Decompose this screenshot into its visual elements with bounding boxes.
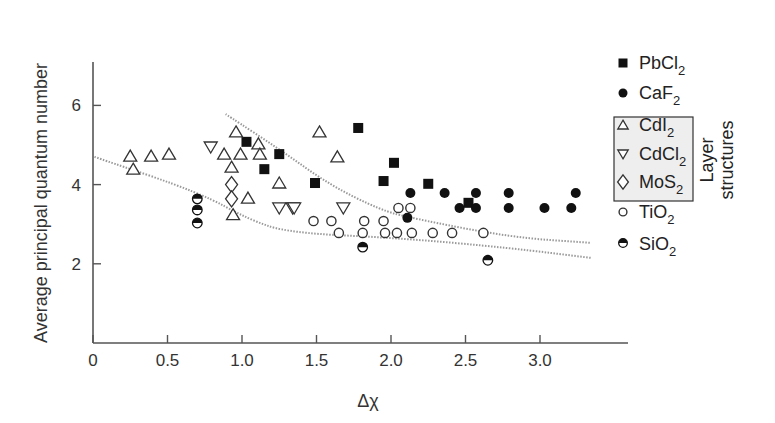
legend-item-pbcl2: PbCl2	[619, 53, 686, 78]
open-triangle-up-marker	[234, 148, 247, 159]
x-tick-label: 2.5	[454, 351, 478, 370]
filled-circle-marker	[471, 203, 481, 213]
open-circle-marker	[479, 228, 488, 237]
filled-circle-marker	[455, 203, 465, 213]
open-circle-marker	[334, 228, 343, 237]
open-circle-marker	[394, 203, 403, 212]
open-triangle-up-marker	[145, 150, 158, 161]
open-triangle-up-marker	[253, 148, 266, 159]
filled-square-marker	[389, 158, 399, 168]
filled-circle-marker	[504, 203, 514, 213]
open-triangle-up-marker	[124, 150, 137, 161]
filled-circle-marker	[402, 213, 412, 223]
x-tick-label: 2.0	[379, 351, 403, 370]
y-tick-label: 6	[72, 96, 81, 115]
open-triangle-up-marker	[241, 192, 254, 203]
open-triangle-down-marker	[204, 142, 217, 153]
open-triangle-up-marker	[225, 161, 238, 172]
x-axis-title: Δχ	[357, 391, 379, 411]
half-filled-circle-marker	[193, 205, 203, 215]
open-triangle-up-marker	[331, 151, 344, 162]
filled-circle-marker	[539, 203, 549, 213]
legend-label: PbCl2	[639, 53, 685, 78]
x-tick-label: 0.5	[156, 351, 180, 370]
filled-square-marker	[423, 179, 433, 189]
series-mos2	[226, 177, 238, 207]
y-tick-label: 2	[72, 255, 81, 274]
legend-group-label-line2: structures	[717, 120, 737, 199]
open-circle-marker	[380, 228, 389, 237]
filled-square-marker	[274, 149, 284, 159]
open-triangle-up-marker	[218, 148, 231, 159]
legend-group-label-line1: Layer	[697, 137, 717, 182]
filled-square-marker	[353, 123, 363, 133]
open-triangle-up-marker	[230, 126, 243, 137]
filled-square-marker	[241, 137, 251, 147]
filled-circle-marker	[504, 188, 514, 198]
axes: 246 00.51.01.52.02.53.0	[72, 62, 628, 370]
x-tick-label: 3.0	[528, 351, 552, 370]
open-circle-marker	[379, 216, 388, 225]
open-triangle-up-marker	[252, 138, 265, 149]
open-circle-marker	[428, 228, 437, 237]
half-filled-circle-marker	[619, 239, 628, 248]
open-diamond-marker	[226, 191, 238, 207]
x-tick-label: 1.5	[305, 351, 329, 370]
open-circle-marker	[406, 203, 415, 212]
data-points	[124, 123, 581, 265]
series-pbcl2	[241, 123, 473, 208]
open-triangle-up-marker	[313, 126, 326, 137]
open-triangle-down-marker	[337, 203, 350, 214]
filled-square-marker	[259, 164, 269, 174]
filled-circle-marker	[571, 188, 581, 198]
open-circle-marker	[447, 228, 456, 237]
open-circle-marker	[360, 216, 369, 225]
y-tick-label: 4	[72, 176, 81, 195]
filled-square-marker	[619, 59, 628, 68]
y-ticks: 246	[72, 96, 101, 273]
open-triangle-up-marker	[273, 177, 286, 188]
x-tick-label: 0	[88, 351, 97, 370]
half-filled-circle-marker	[193, 194, 203, 204]
legend: PbCl2CaF2CdI2CdCl2MoS2TiO2SiO2 Layer str…	[614, 53, 737, 259]
half-filled-circle-marker	[193, 218, 203, 228]
open-circle-marker	[392, 228, 401, 237]
legend-item-sio2: SiO2	[619, 234, 677, 259]
filled-square-marker	[379, 176, 389, 186]
filled-circle-marker	[619, 89, 628, 98]
y-axis-title: Average principal quantum number	[31, 63, 51, 343]
legend-label: SiO2	[639, 234, 676, 259]
open-triangle-down-marker	[273, 203, 286, 214]
half-filled-circle-marker	[358, 242, 368, 252]
open-triangle-up-marker	[227, 209, 240, 220]
half-filled-circle-marker	[483, 255, 493, 265]
filled-circle-marker	[405, 188, 415, 198]
series-cdi2	[124, 126, 344, 220]
open-circle-marker	[619, 208, 627, 216]
legend-label: TiO2	[639, 202, 675, 227]
open-circle-marker	[407, 228, 416, 237]
filled-circle-marker	[566, 203, 576, 213]
open-circle-marker	[327, 216, 336, 225]
filled-square-marker	[310, 178, 320, 188]
open-circle-marker	[309, 216, 318, 225]
x-ticks: 00.51.01.52.02.53.0	[88, 335, 552, 370]
legend-item-caf2: CaF2	[619, 83, 681, 108]
filled-circle-marker	[471, 188, 481, 198]
x-tick-label: 1.0	[230, 351, 254, 370]
legend-label: CaF2	[639, 83, 680, 108]
series-caf2	[402, 188, 580, 223]
open-triangle-up-marker	[162, 148, 175, 159]
legend-item-tio2: TiO2	[619, 202, 674, 227]
filled-circle-marker	[440, 188, 450, 198]
open-circle-marker	[358, 228, 367, 237]
scatter-chart: 246 00.51.01.52.02.53.0 Average principa…	[0, 0, 775, 423]
